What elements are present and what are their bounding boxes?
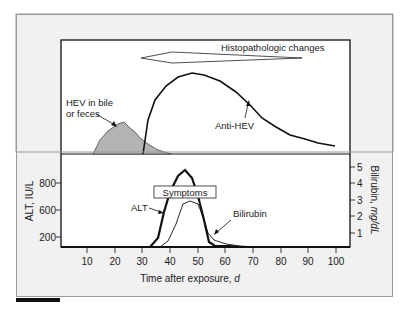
anti-hev-label: Anti-HEV xyxy=(215,120,255,131)
chart: Histopathologic changes HEV in bile or f… xyxy=(0,0,404,320)
scale-bar xyxy=(16,298,60,302)
svg-text:10: 10 xyxy=(81,256,93,267)
svg-text:800: 800 xyxy=(39,178,56,189)
hev-label-2: or feces xyxy=(66,108,100,119)
right-axis-label: Bilirubin, mg/dL xyxy=(369,166,380,235)
svg-text:5: 5 xyxy=(357,162,363,173)
svg-text:100: 100 xyxy=(328,256,345,267)
svg-text:2: 2 xyxy=(357,211,363,222)
bilirubin-label: Bilirubin xyxy=(233,208,267,219)
alt-label: ALT xyxy=(131,202,148,213)
svg-text:40: 40 xyxy=(164,256,176,267)
x-tick-labels: 1020 3040 5060 7080 90100 xyxy=(81,256,344,267)
svg-text:60: 60 xyxy=(219,256,231,267)
svg-text:80: 80 xyxy=(275,256,287,267)
histopathologic-label: Histopathologic changes xyxy=(221,42,325,53)
x-axis-label: Time after exposure, d xyxy=(140,273,240,284)
symptoms-label: Symptoms xyxy=(163,187,208,198)
right-tick-labels: 54 32 1 xyxy=(357,162,363,239)
left-axis-label: ALT, IU/L xyxy=(24,180,35,221)
svg-text:200: 200 xyxy=(39,232,56,243)
svg-text:20: 20 xyxy=(109,256,121,267)
svg-text:1: 1 xyxy=(357,228,363,239)
svg-text:50: 50 xyxy=(192,256,204,267)
svg-text:70: 70 xyxy=(247,256,259,267)
left-tick-labels: 800 600 200 xyxy=(39,178,56,243)
svg-text:4: 4 xyxy=(357,178,363,189)
svg-text:30: 30 xyxy=(136,256,148,267)
svg-text:3: 3 xyxy=(357,195,363,206)
hev-label-1: HEV in bile xyxy=(66,97,113,108)
svg-text:90: 90 xyxy=(302,256,314,267)
svg-text:600: 600 xyxy=(39,205,56,216)
